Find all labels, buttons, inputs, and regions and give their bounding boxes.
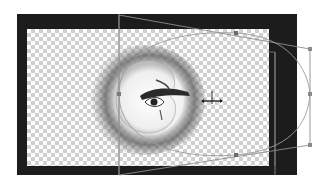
right-handle[interactable]	[308, 92, 312, 96]
bottom-handle[interactable]	[234, 153, 238, 157]
document-canvas[interactable]	[27, 29, 269, 166]
left-handle[interactable]	[117, 92, 121, 96]
top-right-handle[interactable]	[308, 47, 312, 51]
editor-workspace	[0, 0, 327, 187]
layer-image	[27, 29, 269, 166]
top-handle[interactable]	[234, 31, 238, 35]
bottom-right-handle[interactable]	[308, 143, 312, 147]
